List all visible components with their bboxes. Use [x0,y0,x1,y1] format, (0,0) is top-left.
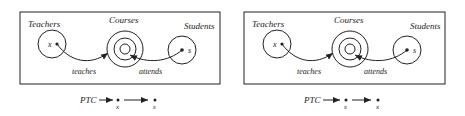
courses-inner-circle [120,44,130,54]
diagram-panel-2: Teachers Courses Students x s teaches at… [232,0,464,116]
formula-var-1: s [344,103,347,111]
teaches-arrow [282,44,333,61]
courses-outer-circle [332,31,368,67]
formula-prefix: PTC [79,95,98,105]
students-label: Students [410,21,441,31]
courses-outer-circle [107,31,143,67]
element-s-label: s [413,46,416,55]
courses-label: Courses [109,15,139,25]
element-x-label: x [272,40,277,49]
attends-label: attends [364,67,387,76]
formula-var-1: x [115,103,120,111]
teaches-label: teaches [297,67,321,76]
teaches-label: teaches [72,67,96,76]
teachers-set-circle [263,30,291,58]
formula-node-2 [154,99,157,102]
formula-node-2 [377,99,380,102]
diagram-2-canvas: Teachers Courses Students x s teaches at… [232,0,464,116]
teaches-arrow [57,44,108,61]
teachers-label: Teachers [252,19,285,29]
students-label: Students [184,21,215,31]
element-s-label: s [188,46,191,55]
formula-node-1 [345,99,348,102]
diagram-1-canvas: Teachers Courses Students x s teaches at… [0,0,232,116]
courses-label: Courses [334,15,364,25]
attends-arrow [355,50,407,61]
formula-prefix: PTC [303,95,322,105]
element-x-label: x [47,40,52,49]
teachers-set-circle [38,30,66,58]
diagram-panel-1: Teachers Courses Students x s teaches at… [0,0,232,116]
teachers-label: Teachers [28,19,61,29]
formula-var-2: x [375,103,380,111]
formula-var-2: s [153,103,156,111]
courses-inner-circle [345,44,355,54]
attends-label: attends [139,67,162,76]
attends-arrow [130,50,182,61]
formula-node-1 [117,99,120,102]
